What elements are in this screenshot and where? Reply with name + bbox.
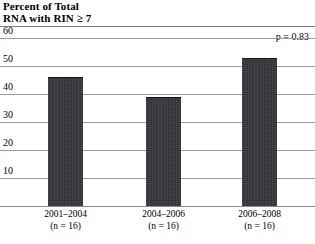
bar-chart-figure: Percent of Total RNA with RIN ≥ 7 p = 0.… [0, 0, 315, 244]
y-axis-tick-label: 40 [3, 82, 13, 93]
x-axis-label-range: 2001–2004 [21, 208, 111, 220]
x-axis-label-range: 2004–2006 [119, 208, 209, 220]
y-axis-tick-label: 30 [3, 110, 13, 121]
x-axis-label-count: (n = 16) [21, 220, 111, 232]
bar-2004–2006 [146, 97, 181, 206]
title-divider-rule [0, 26, 315, 27]
x-axis-label-count: (n = 16) [215, 220, 305, 232]
chart-title: Percent of Total RNA with RIN ≥ 7 [3, 0, 213, 25]
x-axis-baseline [0, 206, 315, 207]
x-axis-label-group: 2004–2006(n = 16) [119, 208, 209, 232]
y-axis-tick-label: 50 [3, 54, 13, 65]
y-axis-tick-label: 20 [3, 138, 13, 149]
gridline-60 [0, 38, 315, 39]
plot-area: 605040302010 [0, 38, 315, 206]
x-axis-label-group: 2001–2004(n = 16) [21, 208, 111, 232]
y-axis-tick-label: 60 [3, 26, 13, 37]
x-axis-label-count: (n = 16) [119, 220, 209, 232]
x-axis-label-range: 2006–2008 [215, 208, 305, 220]
y-axis-tick-label: 10 [3, 166, 13, 177]
bar-2006–2008 [242, 58, 277, 206]
bar-2001–2004 [48, 77, 83, 206]
x-axis-label-group: 2006–2008(n = 16) [215, 208, 305, 232]
x-axis-labels: 2001–2004(n = 16)2004–2006(n = 16)2006–2… [0, 208, 315, 242]
